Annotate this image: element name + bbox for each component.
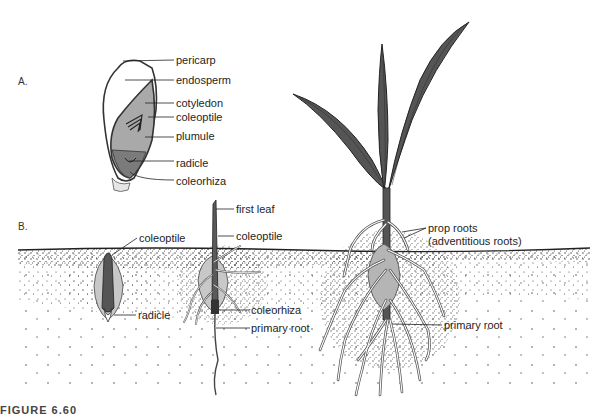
label-prop-roots: prop roots — [428, 222, 478, 234]
label-coleoptile-stage2: coleoptile — [236, 230, 282, 242]
label-coleoptile-seed: coleoptile — [176, 111, 222, 123]
label-coleorhiza-stage2: coleorhiza — [251, 304, 301, 316]
label-coleoptile-stage1: coleoptile — [139, 232, 185, 244]
label-radicle-stage1: radicle — [138, 309, 170, 321]
panel-label-b: B. — [18, 221, 27, 232]
label-radicle-seed: radicle — [176, 157, 208, 169]
label-coleorhiza-seed: coleorhiza — [176, 175, 226, 187]
label-primary-root-stage2: primary root — [251, 322, 310, 334]
label-cotyledon: cotyledon — [176, 97, 223, 109]
panel-label-a: A. — [18, 76, 27, 87]
figure-caption: FIGURE 6.60 — [0, 404, 77, 416]
label-primary-root-stage3: primary root — [444, 319, 503, 331]
label-endosperm: endosperm — [176, 74, 231, 86]
label-adventitious-roots: (adventitious roots) — [428, 235, 522, 247]
seed-section — [103, 60, 174, 192]
label-first-leaf: first leaf — [236, 203, 275, 215]
label-pericarp: pericarp — [176, 54, 216, 66]
label-plumule: plumule — [176, 130, 215, 142]
